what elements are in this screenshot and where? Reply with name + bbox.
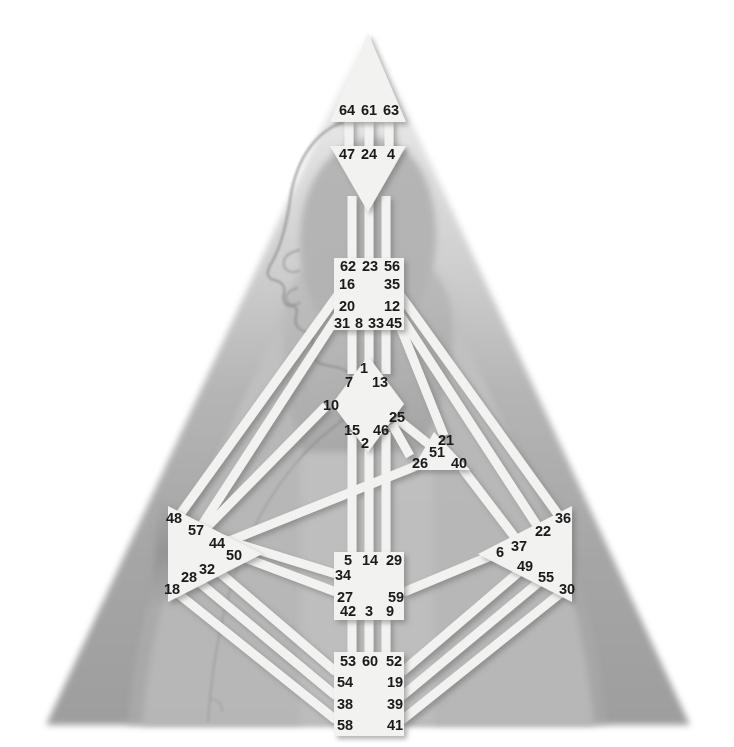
gate-37[interactable]: 37 (511, 538, 527, 554)
gate-13[interactable]: 13 (372, 374, 388, 390)
gate-14[interactable]: 14 (362, 552, 378, 568)
gate-58[interactable]: 58 (337, 717, 353, 733)
gate-26[interactable]: 26 (412, 455, 428, 471)
bodygraph-diagram: 6461634724462235616352012318334517131025… (0, 0, 734, 747)
gate-60[interactable]: 60 (362, 653, 378, 669)
gate-5[interactable]: 5 (344, 552, 352, 568)
gate-4[interactable]: 4 (387, 146, 395, 162)
gate-15[interactable]: 15 (344, 422, 360, 438)
gate-40[interactable]: 40 (451, 455, 467, 471)
gate-62[interactable]: 62 (340, 258, 356, 274)
gate-12[interactable]: 12 (384, 298, 400, 314)
gate-55[interactable]: 55 (538, 569, 554, 585)
gate-28[interactable]: 28 (181, 569, 197, 585)
gate-24[interactable]: 24 (361, 146, 377, 162)
gate-49[interactable]: 49 (517, 558, 533, 574)
gate-9[interactable]: 9 (386, 603, 394, 619)
gate-23[interactable]: 23 (362, 258, 378, 274)
gate-42[interactable]: 42 (340, 603, 356, 619)
gate-2[interactable]: 2 (361, 435, 369, 451)
gate-39[interactable]: 39 (387, 696, 403, 712)
gate-34[interactable]: 34 (335, 567, 351, 583)
gate-30[interactable]: 30 (559, 581, 575, 597)
gate-3[interactable]: 3 (365, 603, 373, 619)
gate-61[interactable]: 61 (361, 102, 377, 118)
gate-18[interactable]: 18 (164, 581, 180, 597)
gate-41[interactable]: 41 (387, 717, 403, 733)
gate-38[interactable]: 38 (337, 696, 353, 712)
gate-44[interactable]: 44 (209, 535, 225, 551)
gate-53[interactable]: 53 (340, 653, 356, 669)
gate-48[interactable]: 48 (166, 510, 182, 526)
gate-6[interactable]: 6 (496, 544, 504, 560)
gate-36[interactable]: 36 (555, 510, 571, 526)
gate-32[interactable]: 32 (199, 561, 215, 577)
gate-10[interactable]: 10 (323, 397, 339, 413)
gate-46[interactable]: 46 (373, 422, 389, 438)
gate-50[interactable]: 50 (226, 547, 242, 563)
gate-29[interactable]: 29 (386, 552, 402, 568)
gate-8[interactable]: 8 (355, 315, 363, 331)
gate-57[interactable]: 57 (188, 522, 204, 538)
gate-64[interactable]: 64 (339, 102, 355, 118)
bodygraph-canvas: 6461634724462235616352012318334517131025… (0, 0, 734, 747)
gate-47[interactable]: 47 (339, 146, 355, 162)
gate-20[interactable]: 20 (339, 298, 355, 314)
gate-25[interactable]: 25 (389, 409, 405, 425)
gate-7[interactable]: 7 (345, 374, 353, 390)
gate-51[interactable]: 51 (429, 444, 445, 460)
gate-35[interactable]: 35 (384, 276, 400, 292)
gate-63[interactable]: 63 (383, 102, 399, 118)
gate-19[interactable]: 19 (387, 674, 403, 690)
gate-54[interactable]: 54 (337, 674, 353, 690)
gate-22[interactable]: 22 (535, 523, 551, 539)
gate-33[interactable]: 33 (368, 315, 384, 331)
gate-56[interactable]: 56 (384, 258, 400, 274)
gate-16[interactable]: 16 (339, 276, 355, 292)
gate-45[interactable]: 45 (386, 315, 402, 331)
gate-1[interactable]: 1 (360, 360, 368, 376)
gate-31[interactable]: 31 (334, 315, 350, 331)
gate-52[interactable]: 52 (386, 653, 402, 669)
